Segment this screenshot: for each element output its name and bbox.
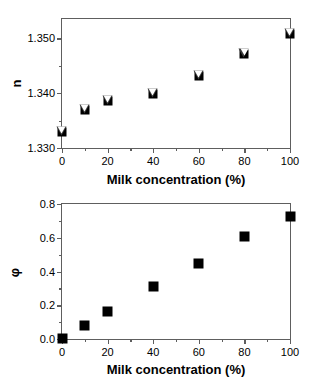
y-axis-tick-label: 1.330 — [27, 142, 55, 154]
x-axis-minor-tick — [85, 339, 86, 342]
data-point-marker — [148, 281, 159, 292]
marker-triangle-inner-glyph — [149, 89, 157, 96]
x-axis-tick — [290, 339, 291, 344]
plot-area-refractive-index: 1.3301.3401.350020406080100 — [62, 19, 290, 148]
x-axis-minor-tick — [267, 339, 268, 342]
plot-frame-refractive-index: 1.3301.3401.350020406080100 — [61, 18, 291, 149]
y-axis-tick-label: 1.350 — [27, 32, 55, 44]
y-axis-tick-label: 0.2 — [40, 299, 55, 311]
y-axis-tick — [57, 272, 62, 273]
x-axis-tick — [108, 339, 109, 344]
x-axis-tick — [199, 339, 200, 344]
data-point-marker — [239, 48, 250, 59]
x-axis-title-phi: Milk concentration (%) — [61, 362, 291, 377]
y-axis-title-phi: φ — [7, 263, 22, 283]
plot-area-volume-fraction: 0.00.20.40.60.8020406080100 — [62, 204, 290, 339]
x-axis-minor-tick — [176, 148, 177, 151]
marker-square-glyph — [239, 231, 249, 241]
y-axis-minor-tick — [59, 288, 62, 289]
x-axis-tick-label: 80 — [238, 155, 250, 167]
figure-container: n 1.3301.3401.350020406080100 Milk conce… — [0, 0, 311, 389]
y-axis-tick-label: 0.8 — [40, 198, 55, 210]
x-axis-tick-label: 80 — [238, 346, 250, 358]
x-axis-tick-label: 20 — [101, 346, 113, 358]
data-point-marker — [239, 231, 250, 242]
y-axis-tick — [57, 38, 62, 39]
data-point-marker — [102, 96, 113, 107]
data-point-marker — [285, 28, 296, 39]
x-axis-minor-tick — [176, 339, 177, 342]
y-axis-tick — [57, 93, 62, 94]
x-axis-tick-label: 60 — [193, 346, 205, 358]
x-axis-minor-tick — [130, 148, 131, 151]
marker-triangle-inner-glyph — [80, 104, 88, 111]
x-axis-minor-tick — [222, 339, 223, 342]
data-point-marker — [79, 104, 90, 115]
marker-triangle-inner-glyph — [286, 28, 294, 35]
y-axis-tick — [57, 204, 62, 205]
data-point-marker — [102, 306, 113, 317]
y-axis-minor-tick — [59, 121, 62, 122]
x-axis-tick — [153, 148, 154, 153]
y-axis-minor-tick — [59, 221, 62, 222]
y-axis-tick-label: 0.0 — [40, 333, 55, 345]
data-point-marker — [57, 333, 68, 344]
x-axis-tick-label: 40 — [147, 346, 159, 358]
x-axis-tick-label: 40 — [147, 155, 159, 167]
x-axis-tick-label: 0 — [59, 155, 65, 167]
plot-frame-volume-fraction: 0.00.20.40.60.8020406080100 — [61, 203, 291, 340]
x-axis-tick — [244, 148, 245, 153]
marker-triangle-inner-glyph — [103, 96, 111, 103]
y-axis-tick-label: 1.340 — [27, 87, 55, 99]
y-axis-tick-label: 0.6 — [40, 232, 55, 244]
y-axis-tick — [57, 238, 62, 239]
x-axis-minor-tick — [222, 148, 223, 151]
y-axis-minor-tick — [59, 255, 62, 256]
x-axis-tick — [290, 148, 291, 153]
marker-square-glyph — [285, 212, 295, 222]
marker-square-glyph — [57, 333, 67, 343]
x-axis-tick-label: 60 — [193, 155, 205, 167]
chart-panel-volume-fraction: φ 0.00.20.40.60.8020406080100 Milk conce… — [0, 193, 311, 389]
marker-square-glyph — [194, 259, 204, 269]
x-axis-minor-tick — [267, 148, 268, 151]
marker-triangle-inner-glyph — [194, 70, 202, 77]
marker-square-glyph — [148, 282, 158, 292]
data-point-marker — [193, 70, 204, 81]
x-axis-minor-tick — [130, 339, 131, 342]
x-axis-tick-label: 100 — [281, 346, 299, 358]
y-axis-tick-label: 0.4 — [40, 266, 55, 278]
marker-triangle-inner-glyph — [58, 126, 66, 133]
x-axis-tick — [244, 339, 245, 344]
y-axis-title-n: n — [9, 74, 24, 94]
x-axis-tick — [62, 148, 63, 153]
x-axis-tick-label: 20 — [101, 155, 113, 167]
x-axis-tick-label: 0 — [59, 346, 65, 358]
x-axis-tick — [199, 148, 200, 153]
y-axis-minor-tick — [59, 66, 62, 67]
data-point-marker — [57, 126, 68, 137]
x-axis-tick — [108, 148, 109, 153]
marker-triangle-inner-glyph — [240, 48, 248, 55]
chart-panel-refractive-index: n 1.3301.3401.350020406080100 Milk conce… — [0, 0, 311, 195]
x-axis-title-n: Milk concentration (%) — [61, 172, 291, 187]
marker-square-glyph — [80, 321, 90, 331]
y-axis-tick — [57, 305, 62, 306]
marker-square-glyph — [103, 306, 113, 316]
x-axis-minor-tick — [85, 148, 86, 151]
x-axis-tick — [153, 339, 154, 344]
data-point-marker — [148, 89, 159, 100]
data-point-marker — [79, 320, 90, 331]
data-point-marker — [285, 211, 296, 222]
x-axis-tick-label: 100 — [281, 155, 299, 167]
y-axis-minor-tick — [59, 322, 62, 323]
data-point-marker — [193, 258, 204, 269]
